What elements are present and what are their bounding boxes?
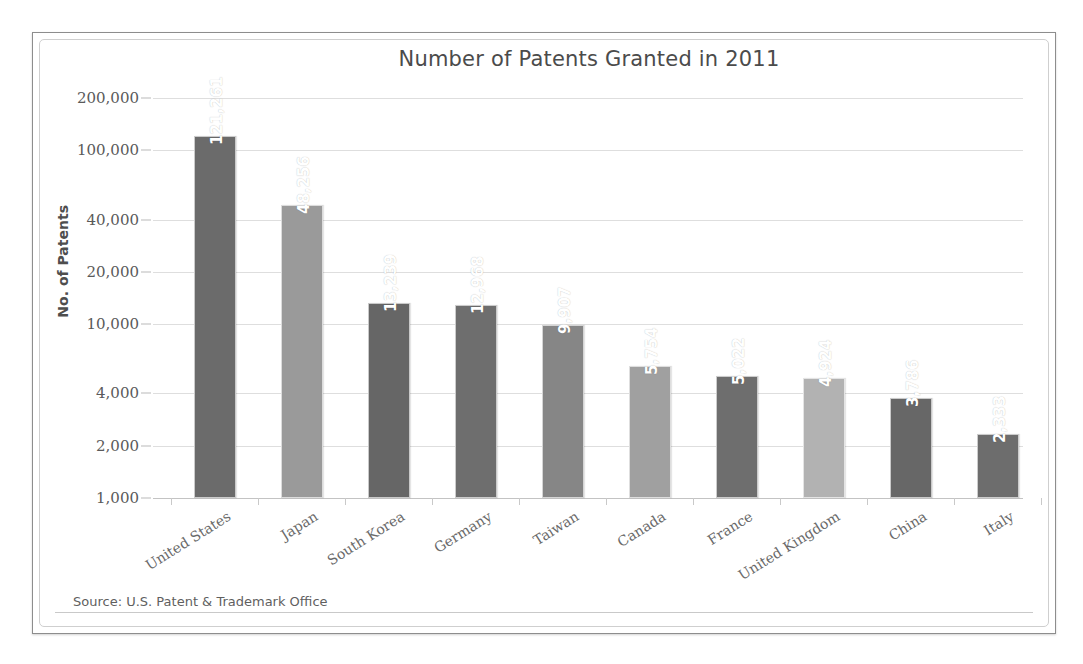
bar-value-label: 3,786 (904, 359, 922, 406)
y-axis-tick-mark (141, 150, 151, 151)
bar[interactable]: 9,907 (542, 325, 584, 498)
y-axis-tick-label: 20,000 (87, 263, 140, 281)
x-axis-tick-mark (606, 498, 607, 505)
bar[interactable]: 3,786 (890, 398, 932, 499)
bar-value-label: 121,261 (208, 76, 226, 144)
bar[interactable]: 48,256 (281, 205, 323, 498)
bar-value-label: 5,022 (730, 338, 748, 385)
y-axis-tick-mark (141, 498, 151, 499)
bar-value-label: 13,239 (382, 254, 400, 312)
x-axis-category-label: China (885, 508, 929, 544)
x-axis-category-label: France (704, 508, 755, 548)
x-axis-tick-mark (432, 498, 433, 505)
source-divider (55, 612, 1033, 613)
y-axis-tick-mark (141, 393, 151, 394)
y-axis-tick-label: 10,000 (87, 315, 140, 333)
gridline (153, 498, 1023, 499)
bar[interactable]: 5,022 (716, 376, 758, 498)
y-axis-tick-mark (141, 98, 151, 99)
plot-area: 200,000100,00040,00020,00010,0004,0002,0… (153, 98, 1023, 498)
source-note: Source: U.S. Patent & Trademark Office (73, 594, 328, 609)
x-axis-tick-mark (345, 498, 346, 505)
bar-value-label: 12,968 (469, 256, 487, 314)
x-axis-category-label: United States (142, 508, 233, 573)
bar-value-label: 2,333 (991, 396, 1009, 443)
y-axis-tick-label: 1,000 (96, 489, 139, 507)
y-axis-tick-mark (141, 324, 151, 325)
bar-value-label: 48,256 (295, 156, 313, 214)
bar-value-label: 5,754 (643, 327, 661, 374)
x-axis-category-label: Canada (614, 508, 668, 550)
bar[interactable]: 12,968 (455, 305, 497, 498)
bar-value-label: 9,907 (556, 286, 574, 333)
x-axis-category-label: Italy (980, 508, 1016, 538)
x-axis-category-label: Taiwan (530, 508, 581, 548)
x-axis-category-label: Japan (277, 508, 320, 543)
x-axis-category-label: South Korea (324, 508, 407, 568)
figure-frame: Number of Patents Granted in 2011 No. of… (32, 32, 1056, 634)
y-axis-title: No. of Patents (55, 205, 71, 318)
y-axis-tick-mark (141, 271, 151, 272)
bar[interactable]: 4,924 (803, 378, 845, 498)
y-axis-tick-label: 4,000 (96, 384, 139, 402)
gridline (153, 150, 1023, 151)
x-axis-tick-mark (519, 498, 520, 505)
bar[interactable]: 5,754 (629, 366, 671, 498)
y-axis-tick-label: 200,000 (77, 89, 139, 107)
y-axis-tick-mark (141, 445, 151, 446)
x-axis-tick-mark (867, 498, 868, 505)
x-axis-tick-mark (258, 498, 259, 505)
chart-title: Number of Patents Granted in 2011 (33, 47, 1055, 71)
bar[interactable]: 121,261 (194, 136, 236, 498)
x-axis-tick-mark (693, 498, 694, 505)
y-axis-tick-label: 2,000 (96, 437, 139, 455)
x-axis-tick-mark (171, 498, 172, 505)
x-axis-category-label: Germany (431, 508, 494, 556)
x-axis-tick-mark (1041, 498, 1042, 505)
x-axis-tick-mark (954, 498, 955, 505)
y-axis-tick-mark (141, 219, 151, 220)
bar[interactable]: 13,239 (368, 303, 410, 498)
gridline (153, 98, 1023, 99)
bar[interactable]: 2,333 (977, 434, 1019, 498)
y-axis-tick-label: 40,000 (87, 211, 140, 229)
bar-value-label: 4,924 (817, 339, 835, 386)
x-axis-tick-mark (780, 498, 781, 505)
y-axis-tick-label: 100,000 (77, 141, 139, 159)
